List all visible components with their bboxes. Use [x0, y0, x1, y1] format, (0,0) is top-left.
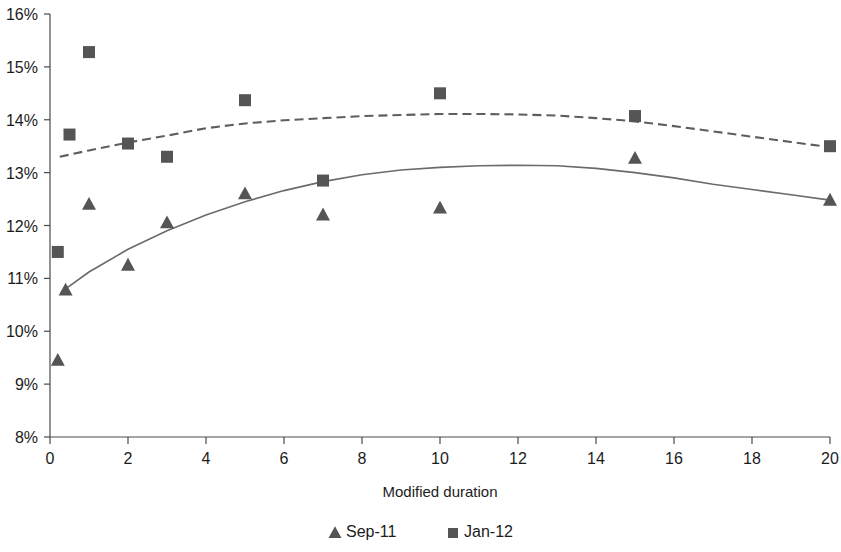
- x-axis-title: Modified duration: [382, 483, 497, 500]
- data-point-sep-11: [238, 186, 252, 199]
- data-point-jan-12: [824, 140, 836, 152]
- data-point-jan-12: [434, 87, 446, 99]
- data-point-jan-12: [64, 129, 76, 141]
- axes-layer: [44, 14, 830, 444]
- data-point-sep-11: [433, 201, 447, 214]
- x-tick-label: 20: [821, 450, 839, 467]
- data-point-jan-12: [161, 151, 173, 163]
- y-tick-label: 13%: [6, 165, 38, 182]
- x-tick-label: 10: [431, 450, 449, 467]
- legend-label-jan-12: Jan-12: [464, 523, 513, 540]
- legend-marker-square: [448, 528, 458, 538]
- data-point-jan-12: [122, 138, 134, 150]
- y-tick-label: 14%: [6, 112, 38, 129]
- y-tick-label: 10%: [6, 323, 38, 340]
- chart-container: 8%9%10%11%12%13%14%15%16%024681012141618…: [0, 0, 841, 552]
- x-tick-label: 2: [124, 450, 133, 467]
- data-point-jan-12: [83, 46, 95, 58]
- data-point-jan-12: [317, 175, 329, 187]
- data-point-jan-12: [239, 94, 251, 106]
- trendline-sep-11: [62, 165, 830, 291]
- x-tick-label: 0: [46, 450, 55, 467]
- data-point-sep-11: [82, 197, 96, 210]
- y-tick-label: 8%: [15, 429, 38, 446]
- data-point-sep-11: [628, 151, 642, 164]
- axis-labels-layer: 8%9%10%11%12%13%14%15%16%024681012141618…: [6, 6, 839, 500]
- data-point-sep-11: [316, 208, 330, 221]
- y-tick-label: 11%: [7, 270, 38, 287]
- x-tick-label: 12: [509, 450, 527, 467]
- y-tick-label: 12%: [6, 218, 38, 235]
- x-tick-label: 14: [587, 450, 605, 467]
- y-tick-label: 16%: [6, 6, 38, 23]
- data-point-sep-11: [51, 353, 65, 366]
- x-tick-label: 6: [280, 450, 289, 467]
- data-point-jan-12: [52, 246, 64, 258]
- data-point-sep-11: [160, 216, 174, 229]
- data-point-sep-11: [121, 258, 135, 271]
- x-tick-label: 8: [358, 450, 367, 467]
- trendline-jan-12: [60, 114, 830, 157]
- legend-label-sep-11: Sep-11: [346, 523, 397, 540]
- data-markers-layer: [51, 46, 837, 366]
- x-tick-label: 16: [665, 450, 683, 467]
- trendlines-layer: [60, 114, 830, 292]
- scatter-plot: 8%9%10%11%12%13%14%15%16%024681012141618…: [0, 0, 841, 552]
- legend: Sep-11Jan-12: [329, 523, 514, 540]
- legend-marker-triangle: [329, 526, 342, 538]
- data-point-jan-12: [629, 110, 641, 122]
- x-tick-label: 18: [743, 450, 761, 467]
- x-tick-label: 4: [202, 450, 211, 467]
- y-tick-label: 9%: [15, 376, 38, 393]
- y-tick-label: 15%: [6, 59, 38, 76]
